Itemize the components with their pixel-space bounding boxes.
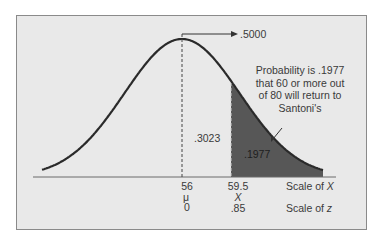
scale-x-label: Scale of X bbox=[286, 180, 334, 192]
mean-z-tick: 0 bbox=[184, 201, 190, 213]
note-line-3: of 80 will return to bbox=[240, 89, 360, 102]
scale-z-var: z bbox=[327, 202, 332, 214]
probability-annotation: Probability is .1977 that 60 or more out… bbox=[240, 64, 360, 114]
note-line-1: Probability is .1977 bbox=[240, 64, 360, 77]
cutoff-z-tick: .85 bbox=[231, 202, 246, 214]
annotation-pointer-line bbox=[273, 128, 282, 139]
half-area-arrow-head bbox=[231, 31, 238, 37]
scale-z-label: Scale of z bbox=[286, 202, 332, 214]
tail-area-label: .1977 bbox=[244, 148, 270, 160]
note-line-2: that 60 or more out bbox=[240, 77, 360, 90]
scale-x-var: X bbox=[327, 180, 334, 192]
mid-area-label: .3023 bbox=[194, 132, 220, 144]
scale-z-prefix: Scale of bbox=[286, 202, 327, 214]
note-line-4: Santoni's bbox=[240, 102, 360, 115]
scale-x-prefix: Scale of bbox=[286, 180, 327, 192]
half-area-label: .5000 bbox=[240, 28, 266, 40]
